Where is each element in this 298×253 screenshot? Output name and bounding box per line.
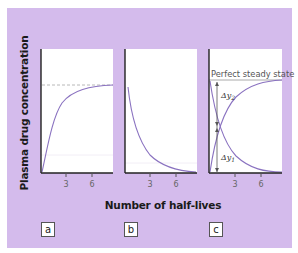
chart-panels: 3 6 3 6 Perfect steady state Δy2 Δy1 3 6	[0, 0, 298, 253]
panel-a-plot-area	[41, 49, 113, 173]
tick-label-3: 3	[63, 180, 68, 189]
tick-label-6: 6	[89, 180, 94, 189]
tick-label-6: 6	[173, 180, 178, 189]
panel-c-plot-area	[209, 49, 282, 173]
perfect-steady-state-label: Perfect steady state	[211, 69, 294, 79]
panel-b: 3 6	[125, 49, 197, 189]
tick-label-6: 6	[258, 180, 263, 189]
panel-label-a: a	[41, 222, 55, 237]
panel-b-plot-area	[125, 49, 197, 173]
tick-label-3: 3	[232, 180, 237, 189]
panel-a: 3 6	[41, 49, 113, 189]
x-axis-label: Number of half-lives	[105, 199, 221, 211]
panel-label-b: b	[124, 222, 138, 237]
y-axis-label: Plasma drug concentration	[18, 36, 30, 191]
panel-label-c: c	[209, 222, 223, 237]
tick-label-3: 3	[147, 180, 152, 189]
panel-c: Perfect steady state Δy2 Δy1 3 6	[209, 49, 294, 189]
